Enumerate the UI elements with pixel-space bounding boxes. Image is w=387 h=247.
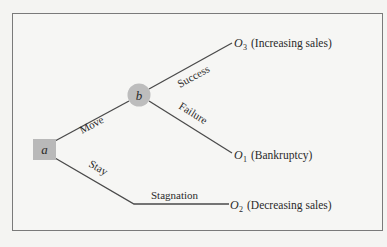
outcome-o1-symbol: O [234, 148, 243, 162]
outcome-o1-subscript: 1 [243, 155, 247, 164]
outcome-o2-subscript: 2 [239, 205, 243, 214]
outcome-o2-description: (Decreasing sales) [247, 199, 332, 212]
stay-branch-label: Stay [87, 157, 110, 177]
outcome-o1-description: (Bankruptcy) [251, 149, 312, 162]
stay-branch-line [55, 158, 229, 204]
decision-tree-diagram: a b Move Success Failure Stay Stagnation… [0, 0, 387, 247]
outcome-o3: O 3 (Increasing sales) [234, 36, 332, 52]
outcome-o2: O 2 (Decreasing sales) [230, 198, 332, 214]
outcome-o2-symbol: O [230, 198, 239, 212]
outcome-o3-subscript: 3 [243, 43, 247, 52]
outcome-o3-symbol: O [234, 36, 243, 50]
stagnation-branch-label: Stagnation [151, 189, 199, 201]
move-branch-label: Move [77, 113, 105, 136]
outcome-o1: O 1 (Bankruptcy) [234, 148, 312, 164]
success-branch-label: Success [175, 62, 211, 89]
outcome-o3-description: (Increasing sales) [251, 37, 332, 50]
chance-node-label: b [136, 88, 143, 103]
decision-node-label: a [41, 142, 48, 157]
